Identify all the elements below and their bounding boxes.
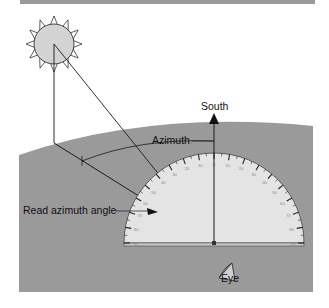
arrow-up-icon [209, 113, 219, 124]
protractor-tick-label: 80 [289, 227, 294, 232]
eye-label: Eye [221, 273, 239, 284]
protractor-tick-label: 90 [133, 241, 138, 246]
read-azimuth-angle-label: Read azimuth angle [23, 205, 116, 216]
protractor-tick-label: 60 [280, 201, 285, 206]
protractor-tick-label: 10 [198, 163, 203, 168]
protractor-tick-label: 30 [251, 172, 256, 177]
protractor-tick-label: 50 [151, 190, 156, 195]
azimuth-label: Azimuth [152, 135, 190, 146]
protractor-tick-label: 50 [272, 190, 277, 195]
protractor-tick-label: 70 [286, 213, 291, 218]
protractor-tick-label: 20 [239, 166, 244, 171]
azimuth-diagram: 9080706050403020100102030405060708090 [0, 0, 329, 308]
protractor-tick-label: 10 [225, 163, 230, 168]
top-bar [20, 0, 315, 4]
protractor-tick-label: 40 [262, 180, 267, 185]
protractor-tick-label: 30 [172, 172, 177, 177]
protractor-tick-label: 40 [161, 180, 166, 185]
protractor-tick-label: 20 [185, 166, 190, 171]
protractor-tick-label: 80 [134, 227, 139, 232]
protractor-tick-label: 60 [143, 201, 148, 206]
protractor-center [212, 241, 216, 245]
protractor-tick-label: 90 [291, 241, 296, 246]
protractor-tick-label: 70 [137, 213, 142, 218]
south-label: South [201, 101, 228, 112]
